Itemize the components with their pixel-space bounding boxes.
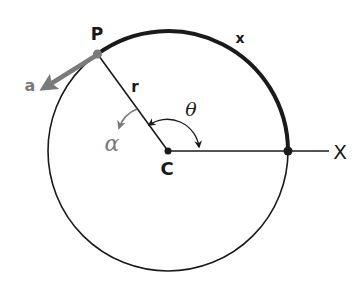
label-alpha: α bbox=[105, 131, 120, 156]
arc-length-x bbox=[98, 31, 289, 151]
acceleration-arrow bbox=[44, 55, 97, 88]
alpha-arc bbox=[119, 109, 137, 128]
center-dot bbox=[165, 148, 172, 155]
x-intercept-dot bbox=[284, 147, 293, 156]
theta-angle-arc bbox=[149, 119, 199, 147]
label-axis-x: X bbox=[333, 140, 347, 164]
label-theta: θ bbox=[185, 98, 197, 120]
label-radius: r bbox=[131, 78, 139, 96]
label-arc-length: x bbox=[235, 30, 244, 46]
label-acceleration: a bbox=[25, 76, 36, 95]
circular-motion-diagram: P C X r x θ α a bbox=[0, 0, 361, 290]
point-p-dot bbox=[93, 50, 102, 59]
label-p: P bbox=[91, 24, 103, 44]
label-center: C bbox=[160, 158, 173, 179]
